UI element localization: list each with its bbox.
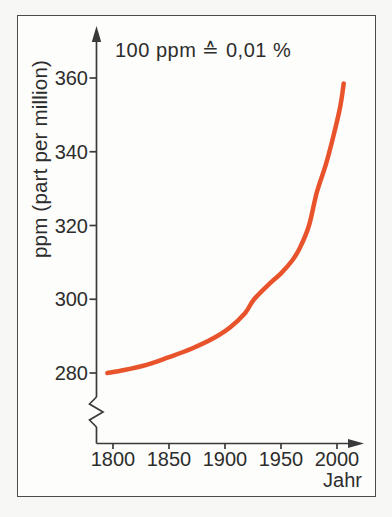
y-tick-label-360: 360: [34, 67, 88, 89]
x-tick-label-1800: 1800: [85, 448, 141, 470]
y-axis-arrow-icon: [92, 26, 101, 42]
x-axis-title: Jahr: [302, 469, 362, 491]
x-tick-label-2000: 2000: [309, 448, 365, 470]
y-tick-label-320: 320: [34, 215, 88, 237]
y-tick-label-280: 280: [34, 362, 88, 384]
x-tick-label-1900: 1900: [197, 448, 253, 470]
x-tick-label-1850: 1850: [141, 448, 197, 470]
co2-curve: [107, 84, 343, 374]
annotation-ppm-percent: 100 ppm ≙ 0,01 %: [115, 39, 291, 61]
y-tick-label-340: 340: [34, 141, 88, 163]
x-tick-label-1950: 1950: [253, 448, 309, 470]
figure-canvas: ppm (part per million) 100 ppm ≙ 0,01 % …: [0, 0, 392, 517]
y-axis-break-zigzag: [90, 397, 104, 427]
x-axis-arrow-icon: [348, 439, 364, 448]
y-tick-label-300: 300: [34, 288, 88, 310]
